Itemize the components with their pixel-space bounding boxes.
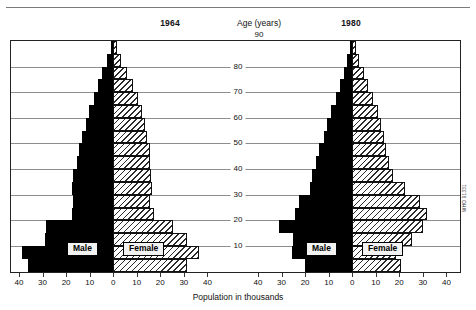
bar <box>331 105 352 118</box>
legend-female-1964: Female <box>123 242 164 256</box>
x-tick-label: 40 <box>442 278 451 287</box>
bar <box>73 169 113 182</box>
bar <box>310 182 352 195</box>
x-tick-label: 30 <box>418 278 427 287</box>
bar <box>312 169 352 182</box>
bar <box>113 54 121 67</box>
x-tick-label: 30 <box>38 278 47 287</box>
x-axis: 4030201001020304040302010010203040 <box>10 273 461 293</box>
bar <box>79 143 113 156</box>
bar <box>352 143 386 156</box>
bar <box>94 92 113 105</box>
x-tick <box>352 273 353 277</box>
bar <box>352 131 384 144</box>
bar <box>352 105 378 118</box>
bar <box>319 143 352 156</box>
x-tick <box>90 273 91 277</box>
bar <box>113 220 173 233</box>
bar <box>113 67 127 80</box>
legend-female-1980: Female <box>362 242 403 256</box>
bar <box>352 92 373 105</box>
x-tick-label: 0 <box>350 278 354 287</box>
panel-title-1980: 1980 <box>341 18 361 28</box>
legend-male-1964: Male <box>67 242 98 256</box>
bar <box>73 195 113 208</box>
x-tick <box>19 273 20 277</box>
bar <box>113 41 117 54</box>
x-tick <box>66 273 67 277</box>
bar <box>352 67 364 80</box>
bar <box>113 143 150 156</box>
bar <box>102 67 113 80</box>
x-tick <box>258 273 259 277</box>
bar <box>72 182 113 195</box>
population-pyramid-figure: 1964 Age (years) 1980 90 102030405060708… <box>0 0 476 310</box>
x-tick-label: 40 <box>254 278 263 287</box>
bar <box>352 220 423 233</box>
bar <box>113 169 151 182</box>
x-tick <box>207 273 208 277</box>
x-tick-label: 10 <box>324 278 333 287</box>
x-tick-label: 20 <box>395 278 404 287</box>
age-tick-label-50: 50 <box>231 139 246 147</box>
x-tick <box>43 273 44 277</box>
bar <box>86 118 113 131</box>
bar <box>352 208 427 221</box>
age-tick-label-20: 20 <box>231 216 246 224</box>
source-credit: WHO 91331 <box>462 184 467 212</box>
bar <box>113 79 133 92</box>
bar <box>28 259 113 272</box>
bar <box>344 67 352 80</box>
age-axis-top-tick: 90 <box>255 30 264 39</box>
x-tick-label: 0 <box>111 278 115 287</box>
age-axis-title: Age (years) <box>237 18 281 28</box>
bar <box>352 54 359 67</box>
bar <box>113 105 142 118</box>
bar <box>299 195 352 208</box>
age-tick-label-10: 10 <box>231 242 246 250</box>
bar <box>352 195 420 208</box>
plot-area: 1020304050607080MaleFemaleMaleFemale <box>11 41 460 272</box>
panel-title-1964: 1964 <box>160 18 180 28</box>
bar <box>352 169 393 182</box>
bar <box>72 208 113 221</box>
bar <box>113 182 152 195</box>
bar <box>352 79 368 92</box>
bar <box>305 259 352 272</box>
x-tick-label: 20 <box>301 278 310 287</box>
bar <box>113 92 138 105</box>
x-tick-label: 10 <box>132 278 141 287</box>
bar <box>327 118 352 131</box>
x-tick-label: 40 <box>203 278 212 287</box>
x-tick-label: 40 <box>15 278 24 287</box>
x-tick <box>399 273 400 277</box>
x-tick <box>376 273 377 277</box>
legend-male-1980: Male <box>306 242 337 256</box>
bar <box>46 220 113 233</box>
age-tick-label-30: 30 <box>231 191 246 199</box>
bar <box>89 105 113 118</box>
bar <box>113 156 150 169</box>
x-tick-label: 10 <box>85 278 94 287</box>
bar <box>82 131 113 144</box>
age-tick-label-70: 70 <box>231 88 246 96</box>
x-tick <box>423 273 424 277</box>
x-tick <box>305 273 306 277</box>
x-tick-label: 30 <box>277 278 286 287</box>
x-axis-title: Population in thousands <box>193 292 284 302</box>
bar <box>352 156 389 169</box>
bar <box>113 195 150 208</box>
bar <box>352 182 405 195</box>
bar <box>352 118 381 131</box>
x-tick <box>160 273 161 277</box>
bar <box>352 41 356 54</box>
age-tick-label-60: 60 <box>231 114 246 122</box>
bar <box>279 220 352 233</box>
bar <box>352 259 401 272</box>
x-tick <box>446 273 447 277</box>
bar <box>77 156 114 169</box>
x-tick-label: 30 <box>179 278 188 287</box>
bar <box>336 92 352 105</box>
bar <box>113 208 154 221</box>
bar <box>113 259 187 272</box>
